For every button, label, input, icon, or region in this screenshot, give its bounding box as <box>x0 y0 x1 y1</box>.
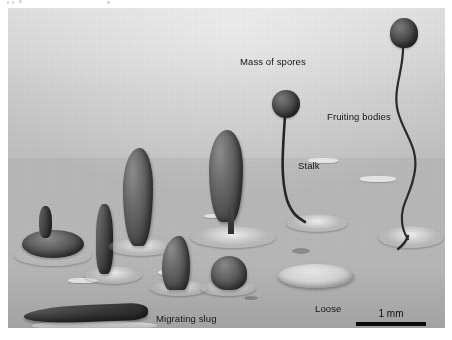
crop-artifact <box>7 1 9 4</box>
micrograph-figure: Mass of spores Fruiting bodies Stalk Mig… <box>0 0 452 340</box>
micrograph-image: Mass of spores Fruiting bodies Stalk Mig… <box>8 8 445 328</box>
film-grain-overlay <box>8 8 445 328</box>
crop-artifact <box>107 1 110 4</box>
crop-artifact <box>12 1 14 4</box>
crop-artifact <box>19 0 22 3</box>
